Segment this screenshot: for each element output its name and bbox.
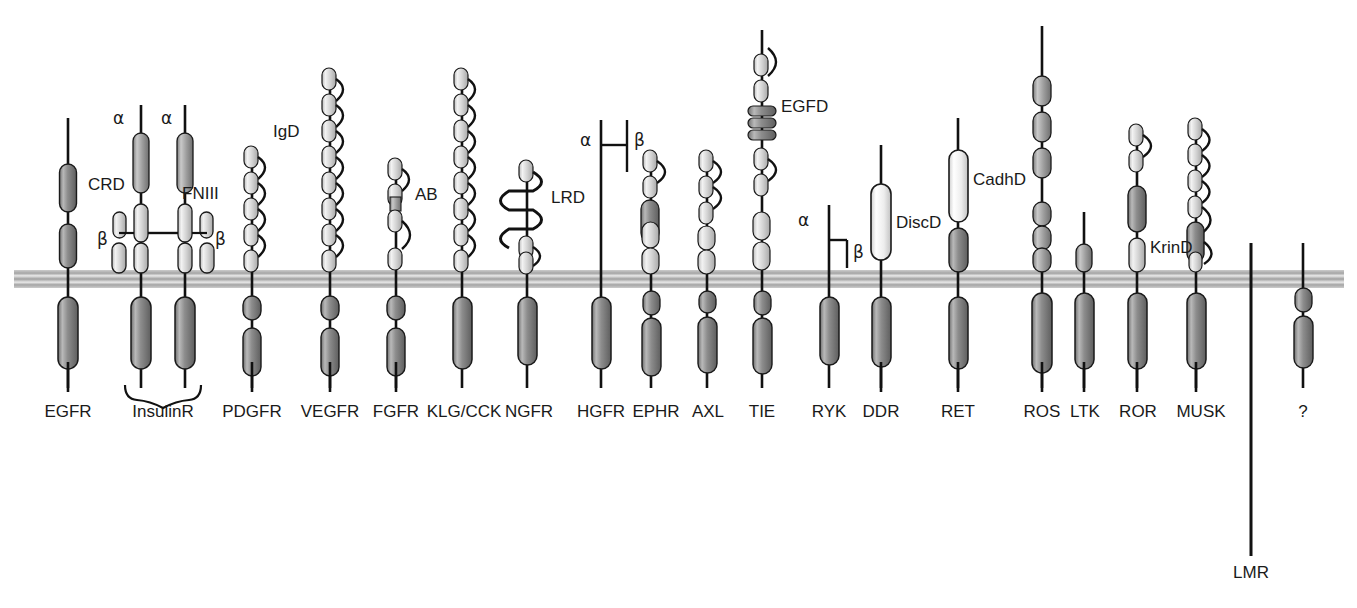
receptor-label-ephr: EPHR [632,402,679,421]
receptor-klgcck[interactable] [453,68,475,388]
domain-fniii [178,204,192,242]
domain-ig [754,174,768,196]
receptor-hgfr[interactable] [592,120,627,388]
receptor-ltk[interactable] [1075,212,1094,388]
domain-fniii [698,250,715,274]
domain-beta [200,243,214,273]
receptor-label-axl: AXL [692,402,724,421]
kinase-domain [1128,293,1147,369]
receptor-label-ngfr: NGFR [505,402,553,421]
domain-ig [519,252,533,274]
receptor-label-hgfr: HGFR [577,402,625,421]
domain-ig [1188,196,1202,218]
kinase-domain-c [1294,316,1313,368]
receptor-label-pdgfr: PDGFR [222,402,282,421]
label-alpha-right: α [161,108,172,128]
domain-ig [1188,170,1202,192]
receptor-insulinr[interactable] [112,105,214,408]
receptor-label-egfr: EGFR [44,402,91,421]
domain-crd [1076,244,1092,272]
domain-discd [871,184,891,260]
domain-alpha-fniii [133,133,149,193]
receptor-vegfr[interactable] [321,68,343,388]
rtk-family-diagram: CRD α α FNIII β β IgD AB LRD α β EGFD α … [0,0,1357,608]
domain-fniii [1033,202,1051,226]
receptor-unknown[interactable] [1294,243,1313,388]
label-crd: CRD [88,175,125,194]
receptor-label-vegfr: VEGFR [301,402,360,421]
kinase-domain [453,297,472,369]
domain-fniii [642,248,659,274]
receptor-pdgfr[interactable] [243,146,265,388]
receptor-label-ror: ROR [1119,402,1157,421]
ig-domain-chain [244,146,265,272]
label-igd: IgD [273,122,299,141]
domain-beta [113,212,126,238]
domain-crd [60,224,77,268]
figure-canvas: CRD α α FNIII β β IgD AB LRD α β EGFD α … [0,0,1357,608]
domain-ig [643,150,657,172]
domain-fniii [698,226,715,250]
domain-ig [699,202,713,224]
receptor-label-unknown: ? [1298,402,1307,421]
label-egfd: EGFD [781,97,828,116]
domain-beta [134,243,148,273]
domain-krind [1129,238,1145,272]
domain-fniii [753,242,770,270]
receptor-ryk[interactable] [820,205,847,388]
label-alpha-left: α [113,108,124,128]
kinase-domain-n [387,296,405,320]
receptor-ret[interactable] [949,118,968,388]
domain-ig [699,176,713,198]
domain-ab [390,197,401,211]
domain-ig [519,160,533,182]
kinase-domain-n [321,296,339,320]
kinase-domain [175,297,195,369]
kinase-domain [1075,293,1094,369]
receptor-label-fgfr: FGFR [373,402,419,421]
label-lrd: LRD [551,188,585,207]
receptor-egfr[interactable] [58,118,78,388]
domain-ig [754,54,768,76]
label-discd: DiscD [896,213,941,232]
label-hgfr-beta: β [634,130,645,150]
receptor-label-klgcck: KLG/CCK [427,402,502,421]
domain-beta [178,243,192,273]
kinase-domain [1187,293,1206,369]
plasma-membrane [14,270,1344,288]
label-cadhd: CadhD [973,170,1026,189]
receptor-label-lmr: LMR [1233,563,1269,582]
juxtamembrane-domain [643,291,660,315]
kinase-domain [1032,293,1052,373]
domain-crd [60,164,77,212]
receptor-label-ryk: RYK [812,402,847,421]
domain-fniii [1033,112,1051,142]
label-krind: KrinD [1150,238,1193,257]
label-ryk-beta: β [853,242,864,262]
kinase-domain [131,297,151,369]
juxtamembrane-domain [699,291,716,313]
domain-ig [754,148,768,170]
label-beta-left: β [97,229,108,249]
domain-crd [1128,186,1146,232]
kinase-domain [872,297,891,367]
label-ryk-alpha: α [798,210,809,230]
kinase-domain-n [1295,288,1312,312]
receptor-label-ltk: LTK [1070,402,1101,421]
label-ab: AB [415,185,438,204]
receptor-labels: EGFR InsulinR PDGFR VEGFR FGFR KLG/CCK N… [44,402,1307,582]
domain-beta [200,212,213,238]
domain-fniii [642,222,659,248]
receptor-ros[interactable] [1032,26,1052,388]
label-beta-right: β [215,229,226,249]
kinase-domain [642,318,661,376]
kinase-domain [58,297,78,369]
receptor-ephr[interactable] [641,150,665,388]
domain-egfd [748,106,776,140]
domain-fniii [1033,76,1051,106]
kinase-domain-c [753,318,772,374]
receptor-ddr[interactable] [871,145,891,388]
receptor-tie[interactable] [748,30,776,388]
receptor-ror[interactable] [1128,124,1151,388]
receptor-axl[interactable] [698,150,721,388]
